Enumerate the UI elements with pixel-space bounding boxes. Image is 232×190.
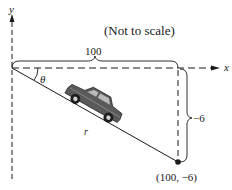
x-axis-label: x xyxy=(224,62,229,73)
angle-arc xyxy=(34,68,38,80)
horizontal-brace xyxy=(12,56,178,68)
endpoint-label: (100, −6) xyxy=(156,172,197,183)
hypotenuse-label: r xyxy=(84,127,88,137)
y-axis-label: y xyxy=(9,4,14,15)
x-axis xyxy=(12,66,220,71)
endpoint-dot xyxy=(175,159,181,165)
diagram-canvas: (Not to scale) y x 100 −6 θ r (100, −6) xyxy=(0,0,232,190)
y-axis xyxy=(10,14,15,182)
not-to-scale-note: (Not to scale) xyxy=(104,24,175,37)
horizontal-distance-label: 100 xyxy=(85,46,102,57)
y-axis-arrow-icon xyxy=(10,14,15,22)
x-axis-arrow-icon xyxy=(211,66,220,71)
vertical-distance-label: −6 xyxy=(193,113,205,124)
vertical-brace xyxy=(180,69,192,162)
hypotenuse-line xyxy=(12,68,178,162)
car-icon xyxy=(62,76,127,127)
angle-label: θ xyxy=(40,74,45,85)
